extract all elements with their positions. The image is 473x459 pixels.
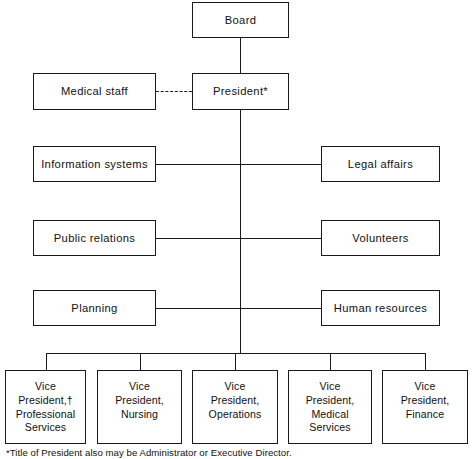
node-vp-nursing-label: Vice President, Nursing bbox=[115, 380, 164, 421]
connector-stem-vp-professional-services bbox=[46, 353, 47, 371]
node-board[interactable]: Board bbox=[192, 2, 289, 38]
node-legal-affairs[interactable]: Legal affairs bbox=[321, 146, 440, 182]
node-volunteers[interactable]: Volunteers bbox=[321, 220, 440, 256]
connector-stem-vp-nursing bbox=[140, 353, 141, 371]
node-planning[interactable]: Planning bbox=[33, 290, 156, 326]
footnote-president-title: *Title of President also may be Administ… bbox=[6, 447, 292, 458]
node-vp-professional-services-label: Vice President,† Professional Services bbox=[16, 380, 76, 435]
connector-president-spine bbox=[240, 110, 241, 353]
node-information-systems-label: Information systems bbox=[41, 158, 148, 171]
connector-stem-vp-medical-services bbox=[330, 353, 331, 371]
footnote-president-title-text: *Title of President also may be Administ… bbox=[6, 447, 292, 458]
connector-board-to-president bbox=[240, 38, 241, 73]
node-medical-staff[interactable]: Medical staff bbox=[33, 73, 156, 110]
connector-row-information-systems bbox=[156, 164, 321, 165]
node-planning-label: Planning bbox=[71, 302, 117, 315]
node-public-relations-label: Public relations bbox=[54, 232, 135, 245]
org-chart: Board President* Medical staff Informati… bbox=[0, 0, 473, 459]
node-board-label: Board bbox=[225, 14, 257, 27]
connector-row-planning bbox=[156, 308, 321, 309]
node-vp-nursing[interactable]: Vice President, Nursing bbox=[97, 370, 182, 444]
connector-stem-vp-finance bbox=[425, 353, 426, 371]
connector-stem-vp-operations bbox=[235, 353, 236, 371]
node-public-relations[interactable]: Public relations bbox=[33, 220, 156, 256]
node-vp-operations[interactable]: Vice President, Operations bbox=[192, 370, 278, 444]
node-president-label: President* bbox=[213, 85, 268, 98]
node-vp-medical-services[interactable]: Vice President, Medical Services bbox=[288, 370, 372, 444]
node-vp-medical-services-label: Vice President, Medical Services bbox=[306, 380, 355, 435]
node-information-systems[interactable]: Information systems bbox=[33, 146, 156, 182]
connector-medical-staff-dashed bbox=[156, 91, 192, 92]
node-vp-finance[interactable]: Vice President, Finance bbox=[382, 370, 468, 444]
node-human-resources[interactable]: Human resources bbox=[321, 290, 440, 326]
node-vp-operations-label: Vice President, Operations bbox=[209, 380, 262, 421]
node-medical-staff-label: Medical staff bbox=[61, 85, 128, 98]
node-president[interactable]: President* bbox=[192, 73, 289, 110]
connector-row-public-relations bbox=[156, 238, 321, 239]
node-volunteers-label: Volunteers bbox=[352, 232, 408, 245]
node-legal-affairs-label: Legal affairs bbox=[348, 158, 413, 171]
node-vp-professional-services[interactable]: Vice President,† Professional Services bbox=[5, 370, 86, 444]
node-vp-finance-label: Vice President, Finance bbox=[401, 380, 450, 421]
node-human-resources-label: Human resources bbox=[334, 302, 428, 315]
